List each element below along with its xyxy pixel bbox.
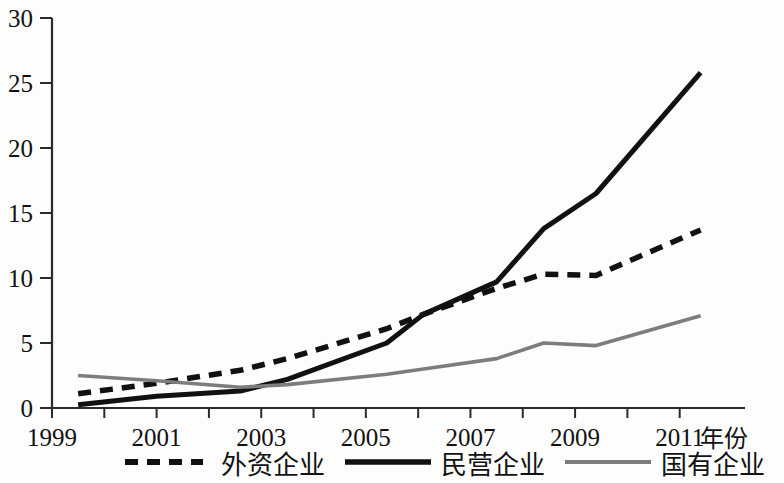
y-tick-label: 25 (8, 70, 33, 97)
x-tick-label: 2001 (132, 424, 182, 451)
y-tick-label: 0 (21, 395, 34, 422)
x-tick-label: 2011 (655, 424, 704, 451)
series-line-外资企业 (78, 230, 700, 394)
legend-label-民营企业: 民营企业 (441, 451, 545, 480)
line-chart: 051015202530 199920012003200520072009201… (0, 0, 784, 483)
y-tick-label: 10 (8, 265, 33, 292)
y-tick-label: 15 (8, 200, 33, 227)
y-tick-label: 5 (21, 330, 34, 357)
chart-legend: 外资企业民营企业国有企业 (125, 451, 765, 480)
y-axis-ticks (40, 18, 52, 408)
x-tick-label: 2007 (445, 424, 495, 451)
x-tick-label: 2003 (236, 424, 286, 451)
series-lines (78, 73, 700, 405)
x-tick-label: 2005 (341, 424, 391, 451)
x-axis-title: 年份 (700, 426, 748, 452)
y-axis-tick-labels: 051015202530 (8, 5, 33, 422)
x-tick-label: 1999 (27, 424, 77, 451)
chart-canvas: 051015202530 199920012003200520072009201… (0, 0, 784, 483)
y-tick-label: 30 (8, 5, 33, 32)
x-tick-label: 2009 (550, 424, 600, 451)
legend-label-外资企业: 外资企业 (221, 451, 325, 480)
legend-label-国有企业: 国有企业 (661, 451, 765, 480)
series-line-民营企业 (78, 73, 700, 405)
x-axis-ticks (52, 408, 680, 418)
x-axis-tick-labels: 1999200120032005200720092011 (27, 424, 704, 451)
y-tick-label: 20 (8, 135, 33, 162)
